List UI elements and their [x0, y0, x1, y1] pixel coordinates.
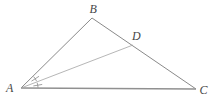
side-ac: [21, 88, 196, 89]
vertex-label-a: A: [5, 81, 14, 95]
vertex-label-c: C: [200, 83, 209, 97]
side-bc: [92, 18, 196, 89]
triangle-diagram: A B C D: [0, 0, 216, 111]
triangle-diagram-canvas: A B C D: [0, 0, 216, 111]
vertex-label-b: B: [90, 2, 98, 16]
point-label-d: D: [131, 29, 141, 43]
cevian-ad: [21, 45, 133, 88]
side-ab: [21, 18, 92, 88]
